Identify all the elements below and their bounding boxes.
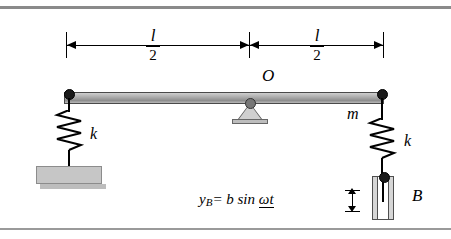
dimension-label-left-denominator: 2 [133, 48, 173, 64]
pivot-pin [245, 98, 256, 109]
dimension-arrow-left-start [67, 41, 76, 49]
dimension-label-right-denominator: 2 [297, 48, 337, 64]
mass-label: m [347, 105, 359, 123]
top-rule [0, 6, 451, 9]
figure-canvas: l 2 l 2 O m k k B yB= b sin [0, 0, 451, 239]
left-spring [52, 110, 86, 152]
excitation-equation-lhs: y [199, 191, 206, 207]
left-ground-block [36, 166, 102, 184]
dimension-label-right-numerator: l [297, 27, 337, 45]
dimension-arrow-right-end [374, 41, 383, 49]
dimension-label-left-numerator: l [133, 27, 173, 45]
dimension-arrow-right-start [250, 41, 259, 49]
excitation-equation: yB= b sin ωt [199, 191, 274, 208]
pivot-base [232, 119, 268, 124]
base-point-label: B [412, 186, 422, 206]
right-spring-top-stem [381, 98, 383, 120]
dimension-arrow-left-end [240, 41, 249, 49]
right-spring-label: k [404, 132, 411, 150]
bottom-rule [0, 228, 451, 230]
excitation-equation-rhs: = b sin [212, 191, 258, 207]
amplitude-tick-top [345, 190, 360, 191]
dimension-label-left: l 2 [133, 27, 173, 64]
amplitude-arrow-up-head [348, 188, 356, 194]
right-spring [366, 118, 400, 160]
amplitude-tick-bottom [345, 211, 360, 212]
pivot-label: O [262, 66, 274, 86]
beam [64, 92, 384, 104]
left-spring-label: k [90, 125, 97, 143]
base-pin [379, 172, 390, 183]
left-ground-shadow [40, 184, 106, 189]
dimension-label-right: l 2 [297, 27, 337, 64]
excitation-equation-argument: ωt [259, 191, 274, 208]
